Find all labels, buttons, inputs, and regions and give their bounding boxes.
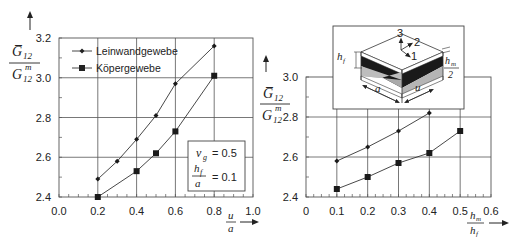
right-y-ticks: 2.42.62.83.0: [283, 71, 298, 203]
svg-text:u: u: [228, 209, 234, 221]
svg-text:a: a: [195, 177, 201, 189]
data-point: [457, 128, 463, 134]
svg-text:G̅: G̅: [263, 86, 274, 101]
data-point: [426, 150, 432, 156]
y-tick-label: 3.2: [36, 32, 51, 44]
y-tick-label: 3.0: [36, 72, 51, 84]
svg-text:m: m: [25, 62, 32, 72]
x-tick-label: 0.8: [207, 205, 222, 217]
fabric-inset-diagram: 3 2 1 h f h m 2 a u: [333, 26, 464, 109]
y-tick-label: 2.8: [283, 111, 298, 123]
nu-value: = 0.5: [212, 147, 237, 159]
axis-2-label: 2: [414, 36, 420, 48]
hf-a-value: = 0.1: [212, 171, 237, 183]
data-point: [365, 145, 370, 150]
svg-text:a: a: [228, 222, 234, 234]
x-tick-label: 0.6: [168, 205, 183, 217]
legend-koeper: Köpergewebe: [96, 62, 161, 74]
left-y-ticks: 2.42.62.83.03.2: [36, 32, 51, 203]
y-tick-label: 2.6: [36, 151, 51, 163]
y-tick-label: 2.4: [36, 191, 51, 203]
svg-text:G̅: G̅: [12, 44, 23, 59]
data-point: [396, 160, 402, 166]
left-legend: Leinwandgewebe Köpergewebe: [72, 45, 178, 74]
right-chart: 2.42.62.83.0 00.10.20.30.40.50.6: [260, 26, 506, 238]
y-tick-label: 2.4: [283, 191, 298, 203]
y-tick-label: 2.6: [283, 151, 298, 163]
y-tick-label: 2.8: [36, 112, 51, 124]
svg-text:12: 12: [23, 74, 33, 84]
diamond-marker-icon: [80, 49, 85, 54]
svg-text:m: m: [451, 60, 456, 68]
svg-text:G: G: [12, 67, 22, 82]
data-point: [172, 128, 178, 134]
x-tick-label: 0: [303, 205, 309, 217]
svg-text:g: g: [203, 153, 207, 162]
svg-text:m: m: [476, 215, 481, 223]
x-tick-label: 0.2: [90, 205, 105, 217]
svg-text:u: u: [415, 81, 421, 93]
svg-text:2: 2: [448, 69, 453, 80]
svg-text:12: 12: [23, 51, 33, 61]
series-line: [337, 113, 430, 161]
x-tick-label: 0.0: [51, 205, 66, 217]
svg-text:12: 12: [274, 93, 284, 103]
data-point: [396, 129, 401, 134]
data-point: [95, 194, 101, 200]
x-tick-label: 0.1: [329, 205, 344, 217]
square-marker-icon: [79, 65, 85, 71]
x-tick-label: 0.6: [483, 205, 498, 217]
y-tick-label: 3.0: [283, 71, 298, 83]
svg-text:a: a: [375, 82, 381, 94]
data-point: [211, 73, 217, 79]
data-point: [365, 174, 371, 180]
x-tick-label: 1.0: [245, 205, 260, 217]
x-tick-label: 0.2: [360, 205, 375, 217]
svg-text:12: 12: [273, 115, 283, 125]
data-point: [334, 186, 340, 192]
x-tick-label: 0.4: [129, 205, 144, 217]
svg-text:h: h: [445, 55, 450, 66]
data-point: [153, 150, 159, 156]
svg-text:m: m: [275, 103, 282, 113]
figure: 2.42.62.83.03.2 0.00.20.40.60.81.0 Leinw…: [0, 0, 518, 247]
left-parameter-box: ν g = 0.5 h f a = 0.1: [188, 141, 245, 191]
data-point: [427, 111, 432, 116]
axis-3-label: 3: [397, 27, 403, 39]
x-tick-label: 0.4: [422, 205, 437, 217]
left-chart: 2.42.62.83.03.2 0.00.20.40.60.81.0 Leinw…: [9, 14, 261, 234]
data-point: [134, 168, 140, 174]
svg-text:G: G: [262, 108, 272, 123]
data-point: [334, 159, 339, 164]
x-tick-label: 0.3: [391, 205, 406, 217]
x-tick-label: 0.5: [453, 205, 468, 217]
svg-text:f: f: [476, 230, 479, 238]
nu-symbol: ν: [196, 146, 202, 160]
axis-1-label: 1: [411, 50, 417, 62]
legend-leinwand: Leinwandgewebe: [96, 45, 178, 57]
